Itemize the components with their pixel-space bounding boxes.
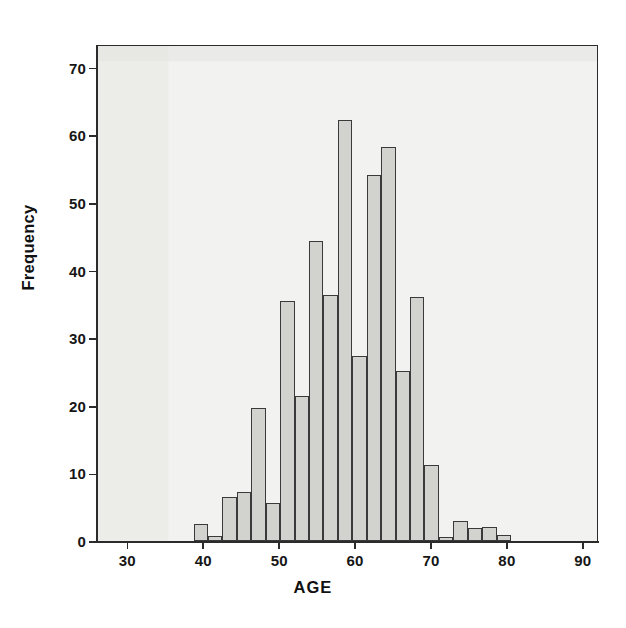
y-tick-label-wrap: 30: [40, 330, 86, 348]
y-tick-label: 50: [46, 195, 86, 212]
y-tick-mark: [89, 203, 96, 205]
x-tick-mark: [278, 542, 280, 549]
histogram-bar: [482, 527, 496, 541]
y-tick-label: 40: [46, 263, 86, 280]
y-tick-label: 20: [46, 398, 86, 415]
bar-series: [98, 46, 597, 541]
histogram-bar: [222, 497, 236, 541]
y-tick-mark: [89, 338, 96, 340]
x-tick-mark: [430, 542, 432, 549]
histogram-bar: [194, 524, 208, 541]
histogram-bar: [424, 465, 438, 541]
histogram-bar: [468, 528, 482, 541]
histogram-bar: [295, 396, 309, 541]
histogram-bar: [352, 356, 366, 541]
x-tick-label: 90: [555, 552, 611, 569]
histogram-bar: [338, 120, 352, 541]
x-tick-mark: [582, 542, 584, 549]
plot-area: [97, 45, 598, 542]
x-axis-line: [96, 541, 599, 543]
histogram-bar: [381, 147, 395, 541]
y-tick-label-wrap: 0: [40, 533, 86, 551]
x-tick-mark: [127, 542, 129, 549]
histogram-bar: [309, 241, 323, 541]
histogram-bar: [367, 175, 381, 542]
y-tick-mark: [89, 135, 96, 137]
y-tick-label-wrap: 60: [40, 127, 86, 145]
y-tick-label-wrap: 50: [40, 195, 86, 213]
y-axis-line: [96, 45, 98, 542]
y-tick-label: 60: [46, 127, 86, 144]
x-axis-title: AGE: [0, 578, 626, 597]
x-tick-label: 40: [175, 552, 231, 569]
y-tick-label: 0: [46, 533, 86, 550]
histogram-bar: [410, 297, 424, 541]
x-tick-label: 80: [479, 552, 535, 569]
y-tick-mark: [89, 271, 96, 273]
y-tick-mark: [89, 68, 96, 70]
y-tick-label: 10: [46, 465, 86, 482]
y-tick-mark: [89, 474, 96, 476]
y-tick-mark: [89, 541, 96, 543]
x-tick-label: 50: [251, 552, 307, 569]
x-tick-mark: [354, 542, 356, 549]
y-tick-mark: [89, 406, 96, 408]
histogram-bar: [237, 492, 251, 541]
x-tick-mark: [202, 542, 204, 549]
histogram-bar: [323, 295, 337, 541]
y-tick-label-wrap: 70: [40, 60, 86, 78]
histogram-bar: [396, 371, 410, 541]
y-tick-label-wrap: 40: [40, 263, 86, 281]
histogram-figure: 010203040506070 30405060708090 Frequency…: [0, 0, 626, 628]
x-tick-mark: [506, 542, 508, 549]
y-tick-label-wrap: 10: [40, 465, 86, 483]
y-axis-title: Frequency: [19, 158, 38, 338]
y-tick-label-wrap: 20: [40, 398, 86, 416]
histogram-bar: [453, 521, 467, 541]
histogram-bar: [251, 408, 265, 541]
x-tick-label: 60: [327, 552, 383, 569]
x-tick-label: 70: [403, 552, 459, 569]
x-tick-label: 30: [99, 552, 155, 569]
y-tick-label: 30: [46, 330, 86, 347]
y-tick-label: 70: [46, 60, 86, 77]
histogram-bar: [280, 301, 294, 541]
histogram-bar: [266, 503, 280, 541]
